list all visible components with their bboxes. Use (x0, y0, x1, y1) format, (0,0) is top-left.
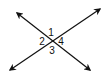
angle-label-1: 1 (48, 27, 54, 38)
line-a (17, 13, 90, 70)
angle-label-3: 3 (49, 45, 55, 56)
angle-label-2: 2 (39, 36, 45, 47)
angle-label-4: 4 (58, 36, 64, 47)
intersecting-lines-diagram: 1 2 4 3 (0, 0, 102, 79)
